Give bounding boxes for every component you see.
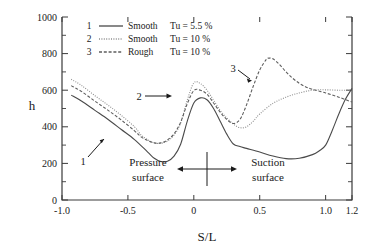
chart-svg: 02004006008001000 -1.0-0.500.51.01.2 h S…: [0, 0, 372, 248]
curve-label-2: 2: [136, 91, 141, 102]
x-tick-label-neg0p5: -0.5: [120, 205, 136, 216]
curve-label-3: 3: [230, 63, 235, 74]
legend-row-3-number: 3: [87, 47, 92, 57]
surface-arrowhead-right: [231, 166, 237, 171]
legend-row-3-tu: Tu = 10 %: [170, 47, 210, 57]
x-tick-label-neg1p0: -1.0: [54, 205, 70, 216]
legend-row-2-surface: Smooth: [128, 34, 158, 44]
chart-figure: 02004006008001000 -1.0-0.500.51.01.2 h S…: [0, 0, 372, 248]
suction-surface-line1: Suction: [251, 156, 285, 168]
pressure-surface-line1: Pressure: [129, 156, 166, 168]
y-axis-title: h: [29, 98, 36, 113]
suction-surface-line2: surface: [252, 171, 284, 183]
legend-row-1-tu: Tu = 5.5 %: [170, 21, 213, 31]
legend-row-2-tu: Tu = 10 %: [170, 34, 210, 44]
y-tick-label-1000: 1000: [37, 12, 57, 23]
curve-arrowhead-2: [167, 94, 173, 99]
surface-arrowhead-left: [177, 166, 183, 171]
y-tick-label-0: 0: [52, 195, 57, 206]
x-tick-label-0p5: 0.5: [253, 205, 266, 216]
legend-row-3-surface: Rough: [128, 47, 154, 57]
data-curve-3: [71, 58, 352, 143]
y-tick-label-800: 800: [42, 48, 57, 59]
legend-row-2-number: 2: [87, 34, 92, 44]
x-axis-tick-labels: -1.0-0.500.51.01.2: [54, 205, 358, 216]
surface-annotation: Pressure surface Suction surface: [129, 152, 285, 186]
y-tick-label-200: 200: [42, 158, 57, 169]
legend: 1 Smooth Tu = 5.5 % 2 Smooth Tu = 10 % 3…: [87, 21, 213, 57]
legend-row-1-surface: Smooth: [128, 21, 158, 31]
x-tick-label-0: 0: [191, 205, 196, 216]
pressure-surface-line2: surface: [132, 171, 164, 183]
y-axis-tick-labels: 02004006008001000: [37, 12, 57, 206]
legend-row-1-number: 1: [87, 21, 92, 31]
curve-callouts: 1 2 3: [80, 63, 252, 167]
x-axis-title: S/L: [198, 229, 217, 244]
x-tick-label-1p0: 1.0: [319, 205, 332, 216]
y-tick-label-400: 400: [42, 121, 57, 132]
y-tick-label-600: 600: [42, 85, 57, 96]
curve-leader-3: [238, 70, 250, 79]
curve-label-1: 1: [80, 156, 85, 167]
x-tick-label-1p2: 1.2: [346, 205, 359, 216]
